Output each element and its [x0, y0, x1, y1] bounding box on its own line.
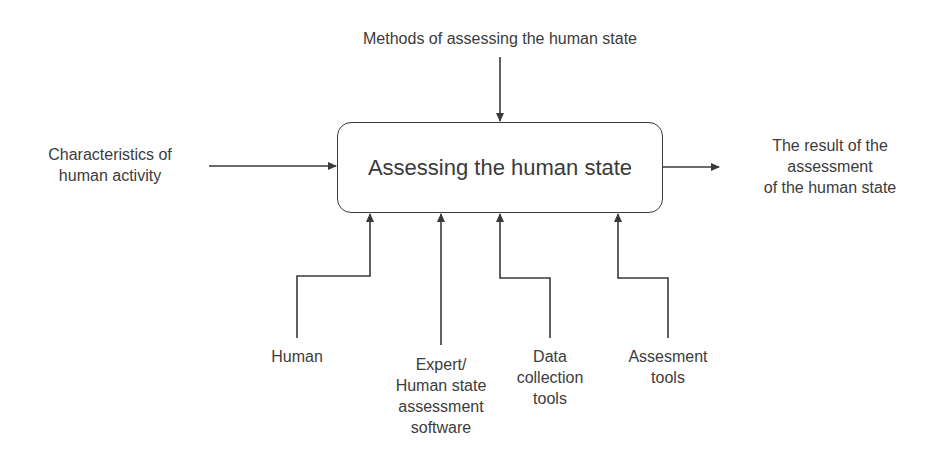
mechanism-label-expert-software: Expert/ Human state assessment software: [371, 354, 511, 438]
mechanism-label-human: Human: [247, 346, 347, 367]
output-label: The result of the assessment of the huma…: [730, 135, 930, 198]
mechanism-arrow-assessment-tools: [618, 214, 668, 338]
control-label: Methods of assessing the human state: [322, 28, 678, 49]
input-label: Characteristics of human activity: [20, 144, 200, 186]
mechanism-arrow-data-collection: [500, 214, 550, 338]
mechanism-label-data-collection-tools: Data collection tools: [500, 346, 600, 409]
mechanism-arrow-human: [297, 214, 370, 338]
diagram-canvas: Assessing the human state Methods of ass…: [0, 0, 939, 475]
mechanism-label-assessment-tools: Assesment tools: [608, 346, 728, 388]
process-title: Assessing the human state: [368, 155, 632, 181]
process-box: Assessing the human state: [337, 122, 663, 213]
